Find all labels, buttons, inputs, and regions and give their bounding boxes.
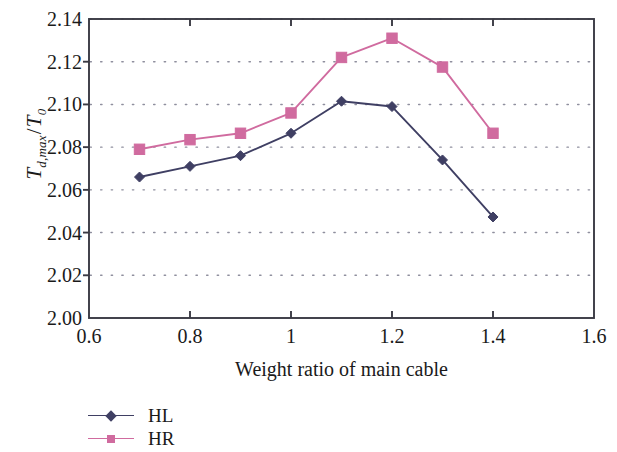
x-axis-title: Weight ratio of main cable	[89, 358, 594, 381]
legend-item-hl[interactable]: HL	[88, 404, 174, 427]
legend-square-marker-icon	[107, 435, 115, 443]
data-point-hr	[488, 128, 498, 138]
plot-area	[0, 0, 617, 452]
data-point-hr	[437, 62, 447, 72]
data-point-hr	[387, 33, 397, 43]
data-point-hr	[134, 144, 144, 154]
legend-diamond-marker-icon	[105, 410, 116, 421]
chart-figure: Td,max/T0 2.002.022.042.062.082.102.122.…	[0, 0, 617, 452]
plot-frame	[89, 19, 594, 318]
data-point-hl	[135, 172, 145, 182]
data-point-hr	[336, 52, 346, 62]
legend-label: HR	[148, 429, 174, 448]
legend-label: HL	[148, 406, 173, 425]
data-point-hl	[236, 151, 246, 161]
series-line-hr	[140, 38, 494, 149]
legend-swatch-hr	[88, 432, 134, 446]
legend-swatch-hl	[88, 409, 134, 423]
legend-item-hr[interactable]: HR	[88, 427, 174, 450]
chart-legend: HLHR	[88, 404, 174, 450]
data-point-hr	[235, 128, 245, 138]
data-point-hr	[185, 134, 195, 144]
data-point-hl	[286, 128, 296, 138]
data-point-hl	[185, 161, 195, 171]
data-point-hr	[286, 108, 296, 118]
